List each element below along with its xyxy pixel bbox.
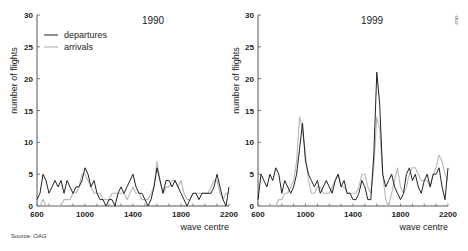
x-tick-label: 600 [30, 210, 44, 219]
y-tick-label: 5 [29, 170, 34, 179]
y-tick-label: 25 [24, 43, 33, 52]
legend-departures-label: departures [64, 30, 108, 40]
chart-title: 1999 [361, 15, 384, 26]
y-tick-label: 25 [245, 43, 254, 52]
y-tick-label: 20 [24, 75, 33, 84]
y-tick-label: 10 [245, 138, 254, 147]
legend: departuresarrivals [44, 30, 108, 52]
y-axis-label: number of flights [9, 47, 19, 114]
y-axis-label: number of flights [231, 47, 241, 114]
x-tick-label: 1000 [76, 210, 94, 219]
figure-code: 6819 [454, 16, 459, 26]
x-tick-label: 1800 [392, 210, 410, 219]
source-note: Source: OAG [11, 233, 47, 239]
chart-canvas: 0510152025306001000140018002200wave cent… [0, 0, 468, 251]
series-arrivals-line [258, 117, 448, 206]
y-tick-label: 15 [245, 107, 254, 116]
x-axis-label: wave centre [398, 222, 448, 232]
y-tick-label: 30 [24, 11, 33, 20]
x-tick-label: 2200 [439, 210, 457, 219]
y-tick-label: 10 [24, 138, 33, 147]
chart-1999: 0510152025306001000140018002200wave cent… [231, 11, 457, 232]
legend-arrivals-label: arrivals [64, 42, 94, 52]
x-tick-label: 600 [251, 210, 265, 219]
y-tick-label: 30 [245, 11, 254, 20]
x-tick-label: 1000 [297, 210, 315, 219]
x-tick-label: 1400 [344, 210, 362, 219]
chart-1990: 0510152025306001000140018002200wave cent… [9, 11, 238, 232]
y-tick-label: 20 [245, 75, 254, 84]
chart-title: 1990 [142, 15, 165, 26]
x-tick-label: 1400 [124, 210, 142, 219]
y-tick-label: 5 [250, 170, 255, 179]
series-departures-line [258, 72, 448, 199]
x-tick-label: 2200 [220, 210, 238, 219]
x-axis-label: wave centre [179, 222, 229, 232]
y-tick-label: 15 [24, 107, 33, 116]
x-tick-label: 1800 [172, 210, 190, 219]
